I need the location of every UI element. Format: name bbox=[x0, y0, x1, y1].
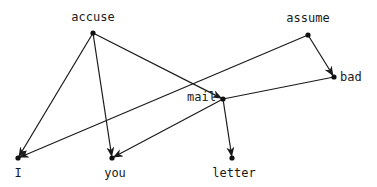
edges-layer bbox=[19, 33, 334, 157]
node-bad: bad bbox=[331, 70, 361, 84]
edge-mail-to-you bbox=[114, 99, 223, 157]
node-dot-icon bbox=[331, 74, 336, 79]
edge-accuse-to-you bbox=[93, 33, 112, 156]
node-dot-icon bbox=[15, 155, 20, 160]
node-letter: letter bbox=[212, 155, 255, 180]
edge-bad-to-mail bbox=[223, 77, 334, 99]
edge-assume-to-I bbox=[20, 35, 308, 157]
node-assume: assume bbox=[286, 11, 329, 38]
edge-accuse-to-I bbox=[19, 33, 93, 156]
node-dot-icon bbox=[305, 32, 310, 37]
node-label: assume bbox=[286, 11, 329, 25]
node-dot-icon bbox=[220, 96, 225, 101]
node-dot-icon bbox=[90, 30, 95, 35]
node-label: accuse bbox=[71, 10, 114, 24]
nodes-layer: accuseassumebadmailIyouletter bbox=[14, 10, 361, 180]
dependency-graph: accuseassumebadmailIyouletter bbox=[0, 0, 377, 187]
node-dot-icon bbox=[229, 155, 234, 160]
edge-mail-to-letter bbox=[223, 99, 232, 156]
node-label: mail bbox=[187, 90, 216, 104]
node-label: you bbox=[104, 166, 126, 180]
node-label: I bbox=[14, 166, 21, 180]
node-I: I bbox=[14, 155, 21, 180]
node-accuse: accuse bbox=[71, 10, 114, 36]
node-label: letter bbox=[212, 166, 255, 180]
node-dot-icon bbox=[109, 155, 114, 160]
edge-accuse-to-mail bbox=[93, 33, 221, 98]
node-you: you bbox=[104, 155, 126, 180]
edge-assume-to-bad bbox=[308, 35, 333, 75]
node-label: bad bbox=[340, 70, 362, 84]
